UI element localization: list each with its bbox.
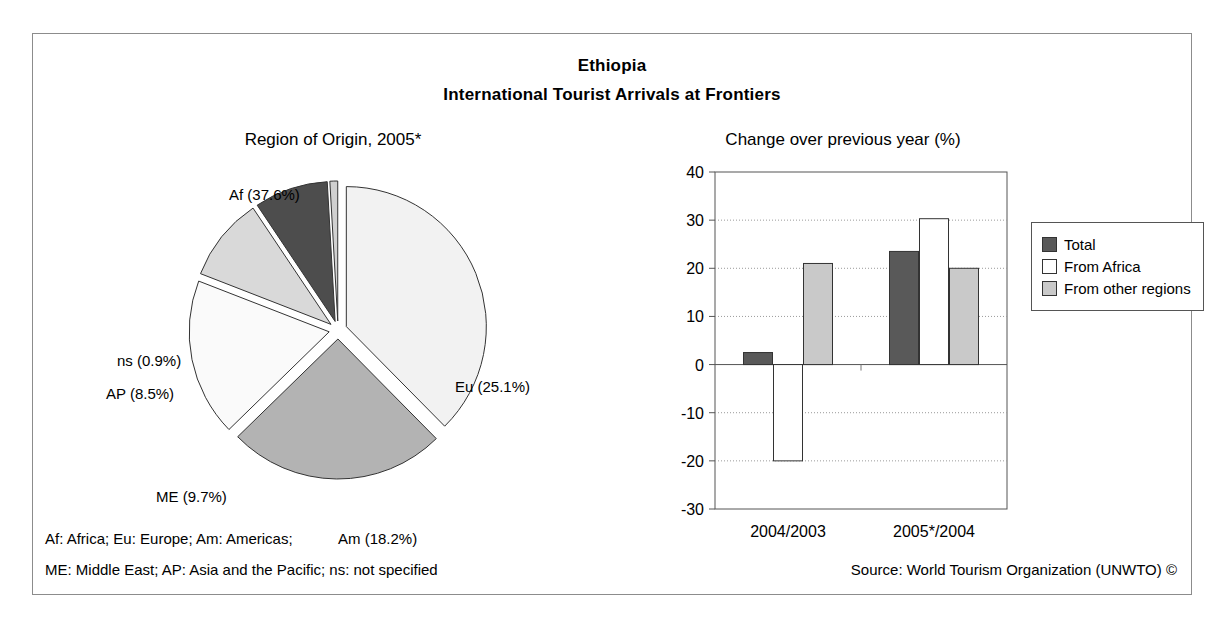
- bar-from-africa-1: [774, 365, 803, 461]
- y-axis-tick-label: 10: [686, 308, 704, 325]
- legend-item-from-africa: From Africa: [1042, 258, 1191, 275]
- pie-label-me: ME (9.7%): [156, 488, 227, 505]
- y-axis-tick-label: -10: [681, 405, 704, 422]
- pie-chart-title: Region of Origin, 2005*: [33, 130, 633, 150]
- pie-chart-graphic: [173, 168, 503, 498]
- legend-label-from-other-regions: From other regions: [1064, 280, 1191, 297]
- bar-from-other-regions-2: [950, 268, 979, 364]
- y-axis-tick-label: -30: [681, 501, 704, 518]
- bar-total-2: [890, 251, 919, 364]
- footnote-abbreviations-line2: ME: Middle East; AP: Asia and the Pacifi…: [45, 561, 438, 578]
- source-note: Source: World Tourism Organization (UNWT…: [851, 561, 1177, 578]
- legend-swatch-total: [1042, 237, 1057, 252]
- bar-chart-legend: Total From Africa From other regions: [1031, 222, 1204, 311]
- bar-total-1: [744, 353, 773, 365]
- pie-label-ap: AP (8.5%): [106, 385, 174, 402]
- pie-label-ns: ns (0.9%): [117, 352, 181, 369]
- page-subtitle: International Tourist Arrivals at Fronti…: [33, 85, 1191, 105]
- pie-label-af: Af (37.6%): [229, 186, 300, 203]
- bar-chart-panel: Change over previous year (%) 403020100-…: [633, 130, 1226, 570]
- y-axis-tick-label: 0: [695, 357, 704, 374]
- page-title: Ethiopia: [33, 56, 1191, 76]
- y-axis-tick-label: 20: [686, 260, 704, 277]
- y-axis-tick-label: 40: [686, 164, 704, 181]
- pie-label-am: Am (18.2%): [338, 530, 417, 547]
- y-axis-tick-label: -20: [681, 453, 704, 470]
- legend-item-from-other-regions: From other regions: [1042, 280, 1191, 297]
- legend-label-from-africa: From Africa: [1064, 258, 1141, 275]
- bar-chart-title: Change over previous year (%): [633, 130, 1053, 150]
- footnote-abbreviations-line1: Af: Africa; Eu: Europe; Am: Americas;: [45, 530, 293, 547]
- title-block: Ethiopia International Tourist Arrivals …: [33, 56, 1191, 105]
- legend-item-total: Total: [1042, 236, 1191, 253]
- bar-from-africa-2: [920, 219, 949, 365]
- x-axis-category-label: 2004/2003: [750, 523, 826, 540]
- pie-chart-panel: Region of Origin, 2005* Af (37.6%) Eu (2…: [33, 130, 633, 550]
- legend-swatch-from-other-regions: [1042, 281, 1057, 296]
- pie-label-eu: Eu (25.1%): [455, 378, 530, 395]
- legend-swatch-from-africa: [1042, 259, 1057, 274]
- bar-chart-graphic: 403020100-10-20-30 2004/20032005*/2004: [633, 164, 1053, 564]
- y-axis-tick-label: 30: [686, 212, 704, 229]
- legend-label-total: Total: [1064, 236, 1096, 253]
- x-axis-category-label: 2005*/2004: [893, 523, 975, 540]
- chart-frame: Ethiopia International Tourist Arrivals …: [32, 33, 1192, 595]
- bar-from-other-regions-1: [804, 263, 833, 364]
